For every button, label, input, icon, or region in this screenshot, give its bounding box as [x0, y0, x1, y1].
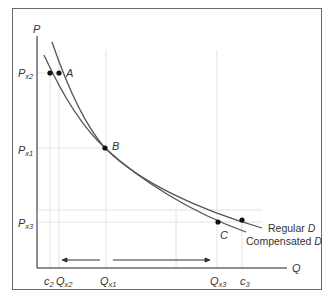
- change-arrows: [62, 258, 210, 262]
- point-label-b: B: [112, 141, 119, 152]
- quantity-label-c2: c2: [44, 276, 54, 289]
- legend-compensated-demand: Compensated D: [246, 236, 322, 247]
- point-label-c: C: [220, 230, 228, 241]
- point-label-a: A: [66, 68, 73, 79]
- point-c: [215, 219, 220, 224]
- quantity-label-c3: c3: [240, 276, 250, 289]
- right-arrow-head: [205, 258, 210, 262]
- y-axis-label: P: [33, 24, 40, 35]
- price-label-px1: Px1: [18, 145, 33, 158]
- point-a: [56, 70, 61, 75]
- point-regular-at-px3: [239, 217, 244, 222]
- quantity-label-qx2: Qx2: [56, 276, 72, 289]
- compensated-demand-curve: [44, 55, 246, 232]
- regular-demand-curve: [52, 42, 262, 228]
- price-label-px2: Px2: [18, 68, 33, 81]
- quantity-label-qx3: Qx3: [210, 276, 226, 289]
- price-label-px3: Px3: [18, 218, 33, 231]
- left-arrow-head: [62, 258, 67, 262]
- quantity-label-qx1: Qx1: [100, 276, 116, 289]
- point-compensated-at-px2: [47, 70, 52, 75]
- point-b: [102, 145, 107, 150]
- demand-diagram: [0, 0, 329, 301]
- x-axis-label: Q: [292, 263, 301, 274]
- legend-regular-demand: Regular D: [268, 223, 315, 234]
- axes: [37, 36, 287, 268]
- grid-lines: [37, 50, 262, 267]
